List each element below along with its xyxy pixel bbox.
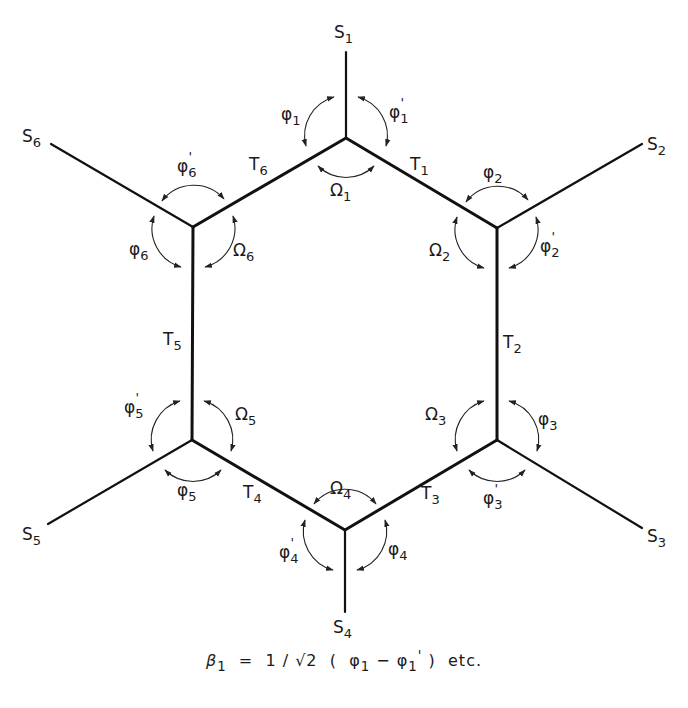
label-omega4: Ω4 [330,478,351,502]
label-omega3: Ω3 [425,404,446,428]
label-s5: S5 [22,524,41,548]
label-phi1: φ1 [281,104,301,128]
label-phi6-prime: φ6' [177,149,197,180]
caption-phi-prime: φ [397,651,409,670]
beta-definition-caption: β1 = 1 / √2 ( φ1 − φ1' ) etc. [0,648,688,674]
label-s2: S2 [647,134,666,158]
label-t1: T1 [409,154,429,178]
arc-phi2p [509,217,538,268]
caption-etc: etc. [448,651,482,670]
arc-phi5 [165,470,221,481]
label-omega5: Ω5 [235,404,256,428]
arc-phi3 [509,401,539,451]
label-t5: T5 [162,329,182,353]
label-omega2: Ω2 [429,240,450,264]
label-phi6: φ6 [129,239,149,263]
bond-s6 [51,144,193,227]
label-phi2: φ2 [483,162,503,186]
caption-beta: β [206,651,217,670]
bond-t5 [192,227,193,440]
arc-phi6p [162,185,224,201]
bond-t4 [192,440,345,530]
bond-t1 [346,138,497,228]
caption-close-paren: ) [429,651,436,670]
arc-omega6 [205,216,235,267]
arc-phi1p [358,97,387,146]
label-s4: S4 [333,617,352,641]
caption-beta-sub: 1 [217,659,226,674]
bond-s2 [497,144,642,228]
caption-phi: φ [349,651,361,670]
caption-phi-sub: 1 [361,659,370,674]
label-phi5: φ5 [177,480,197,504]
bond-s3 [497,440,642,528]
label-t2: T2 [502,332,522,356]
label-omega1: Ω1 [330,180,351,204]
label-s6: S6 [22,126,41,150]
arc-phi3p [469,470,525,481]
caption-open-paren: ( [330,651,337,670]
arc-omega5 [204,401,233,451]
label-t3: T3 [420,483,440,507]
bond-s5 [48,440,192,524]
label-phi4-prime: φ4' [279,535,299,566]
arc-phi2 [466,186,528,202]
caption-factor: 1 / √2 [265,651,317,670]
arc-omega2 [455,217,484,268]
arc-phi5p [151,401,180,451]
label-phi2-prime: φ2' [540,229,560,260]
arc-phi4 [357,520,387,570]
arc-omega1 [318,166,374,177]
arc-phi4p [303,520,333,570]
arc-omega3 [455,401,484,451]
omega-labels: Ω1 Ω2 Ω3 Ω4 Ω5 Ω6 [233,180,450,502]
substituent-bonds [48,52,642,612]
label-t4: T4 [242,482,262,506]
label-phi5-prime: φ5' [124,390,144,421]
label-phi4: φ4 [388,539,408,563]
caption-phi-prime-sub: 1 [408,659,417,674]
caption-minus: − [376,651,390,670]
label-s3: S3 [647,526,666,550]
label-phi3-prime: φ3' [483,481,503,512]
caption-equals: = [239,651,253,670]
label-phi1-prime: φ1' [389,95,409,126]
label-phi3: φ3 [538,409,558,433]
label-s1: S1 [334,22,353,46]
label-omega6: Ω6 [233,240,254,264]
bond-t6 [193,138,346,227]
caption-prime-mark: ' [418,648,423,663]
hexagon-coordinate-diagram: S1 S2 S3 S4 S5 S6 T1 T2 T3 T4 T5 T6 Ω1 Ω… [0,0,688,708]
label-t6: T6 [248,154,268,178]
arc-phi6 [152,216,181,267]
arc-phi1 [305,97,334,146]
